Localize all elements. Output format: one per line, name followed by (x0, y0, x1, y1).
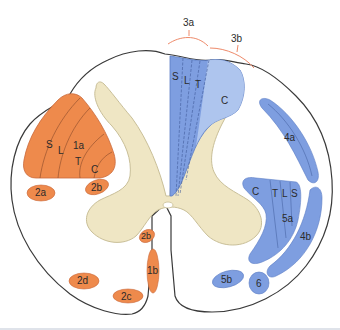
dorsal-label-c: C (221, 95, 228, 106)
label-3a: 3a (183, 17, 195, 28)
label-5b: 5b (221, 274, 233, 285)
label-5a: 5a (282, 213, 294, 224)
label-1b: 1b (147, 265, 159, 276)
label-4b: 4b (300, 231, 312, 242)
label-6: 6 (256, 278, 262, 289)
triangle-label-t: T (75, 156, 81, 167)
label-4a: 4a (284, 132, 296, 143)
label-5a-t: T (272, 188, 278, 199)
label-2b-lower: 2b (141, 231, 151, 241)
central-canal (163, 202, 173, 208)
label-5a-s: S (291, 188, 298, 199)
triangle-label-s: S (46, 139, 53, 150)
dorsal-label-l: L (184, 75, 190, 86)
triangle-label-l: L (58, 145, 64, 156)
label-3b: 3b (231, 33, 243, 44)
label-5a-l: L (282, 188, 288, 199)
label-5a-c: C (252, 186, 259, 197)
label-2d: 2d (77, 275, 88, 286)
dorsal-label-t: T (195, 79, 201, 90)
label-2c: 2c (121, 291, 132, 302)
label-2b-upper: 2b (91, 182, 103, 193)
label-2a: 2a (35, 187, 47, 198)
triangle-label-1a: 1a (73, 140, 85, 151)
dorsal-label-s: S (172, 71, 179, 82)
bracket-3a (168, 38, 208, 47)
spinal-cord-diagram: S L T C 3a 3b S L 1a T C 2a 2b 2b 1b 2c … (0, 0, 340, 330)
triangle-label-c: C (91, 164, 98, 175)
